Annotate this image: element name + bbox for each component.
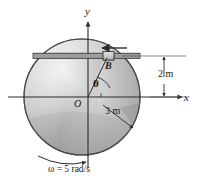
physics-figure: y x O B θ 2 m 3 m ω = 5 rad/s	[0, 0, 197, 183]
radius-label: 3 m	[105, 106, 120, 116]
disk-shading	[20, 30, 150, 170]
origin-label: O	[74, 99, 81, 109]
vertical-offset-label: 2 m	[158, 69, 173, 79]
disk-group	[20, 30, 150, 170]
y-axis-label: y	[85, 6, 90, 17]
x-axis-label: x	[184, 92, 189, 103]
angular-velocity-label: ω = 5 rad/s	[48, 165, 90, 175]
angular-velocity-arrow	[38, 156, 86, 164]
theta-angle-label: θ	[93, 78, 99, 89]
figure-canvas	[0, 0, 197, 183]
point-b-label: B	[105, 61, 112, 71]
slider-block-b	[103, 52, 114, 61]
